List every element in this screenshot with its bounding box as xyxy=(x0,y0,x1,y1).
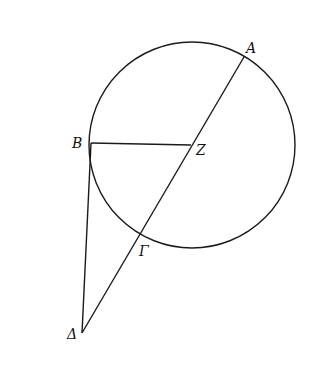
label-A: A xyxy=(244,40,256,56)
label-Z: Z xyxy=(195,142,206,158)
geometry-diagram: A B Z Γ Δ xyxy=(0,0,322,365)
segment-B-Delta xyxy=(82,143,91,333)
segment-A-Delta xyxy=(82,57,244,333)
label-Delta: Δ xyxy=(66,326,77,342)
label-B: B xyxy=(71,135,82,151)
segment-BZ xyxy=(91,143,191,145)
label-Gamma: Γ xyxy=(138,243,150,259)
